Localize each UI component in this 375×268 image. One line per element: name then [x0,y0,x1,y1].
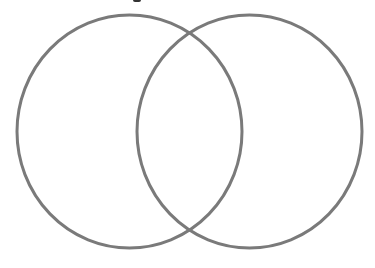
venn-circle-right [137,15,362,248]
venn-diagram [0,0,375,268]
clipped-title-fragment [133,0,141,2]
venn-diagram-svg [0,0,375,268]
venn-circle-left [17,15,242,248]
